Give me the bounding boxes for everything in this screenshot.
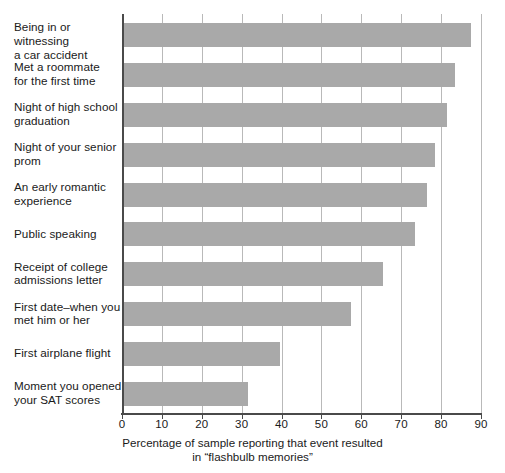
x-tick-label-20: 20 — [195, 418, 208, 430]
category-label-line: Public speaking — [14, 227, 122, 241]
plot-area — [122, 14, 481, 413]
x-tick-label-70: 70 — [395, 418, 408, 430]
category-label-line: First airplane flight — [14, 346, 122, 360]
x-tick-label-80: 80 — [435, 418, 448, 430]
category-label: Public speaking — [14, 227, 122, 241]
bar — [124, 302, 351, 326]
category-label-line: for the first time — [14, 74, 122, 88]
bar — [124, 262, 383, 286]
category-label-line: Receipt of college — [14, 260, 122, 274]
bar — [124, 382, 248, 406]
x-tick-label-60: 60 — [355, 418, 368, 430]
category-label-line: graduation — [14, 114, 122, 128]
bar — [124, 143, 435, 167]
category-label-line: Night of high school — [14, 100, 122, 114]
category-label: An early romanticexperience — [14, 180, 122, 207]
category-label: Night of your seniorprom — [14, 140, 122, 167]
x-tick-label-40: 40 — [275, 418, 288, 430]
category-label-line: admissions letter — [14, 273, 122, 287]
category-label-line: prom — [14, 154, 122, 168]
category-label-line: Night of your senior — [14, 140, 122, 154]
x-tick-label-90: 90 — [474, 418, 487, 430]
category-label-line: met him or her — [14, 313, 122, 327]
category-label-line: a car accident — [14, 48, 122, 62]
x-tick-label-50: 50 — [315, 418, 328, 430]
x-tick-label-10: 10 — [155, 418, 168, 430]
bar — [124, 222, 415, 246]
category-label: Night of high schoolgraduation — [14, 100, 122, 127]
bar — [124, 342, 280, 366]
x-tick-label-30: 30 — [235, 418, 248, 430]
category-label: Being in or witnessinga car accident — [14, 20, 122, 61]
x-axis-caption-line-2: in “flashbulb memories” — [0, 450, 505, 464]
bar — [124, 103, 447, 127]
category-label-line: First date–when you — [14, 300, 122, 314]
x-axis-caption: Percentage of sample reporting that even… — [0, 436, 505, 464]
category-label-line: Moment you opened — [14, 379, 122, 393]
x-axis-line — [121, 413, 482, 415]
gridline-90 — [481, 14, 482, 413]
category-label-line: An early romantic — [14, 180, 122, 194]
category-label-line: Met a roommate — [14, 60, 122, 74]
category-label: First airplane flight — [14, 346, 122, 360]
x-tick-label-0: 0 — [119, 418, 126, 430]
category-label: First date–when youmet him or her — [14, 300, 122, 327]
flashbulb-memories-bar-chart: 0102030405060708090Being in or witnessin… — [0, 0, 505, 473]
category-label: Met a roommatefor the first time — [14, 60, 122, 87]
category-label-line: Being in or witnessing — [14, 20, 122, 47]
category-label-line: experience — [14, 194, 122, 208]
bar — [124, 63, 455, 87]
bar — [124, 23, 471, 47]
category-label-line: your SAT scores — [14, 393, 122, 407]
x-axis-caption-line-1: Percentage of sample reporting that even… — [0, 436, 505, 450]
category-label: Receipt of collegeadmissions letter — [14, 260, 122, 287]
category-label: Moment you openedyour SAT scores — [14, 379, 122, 406]
bar — [124, 183, 427, 207]
